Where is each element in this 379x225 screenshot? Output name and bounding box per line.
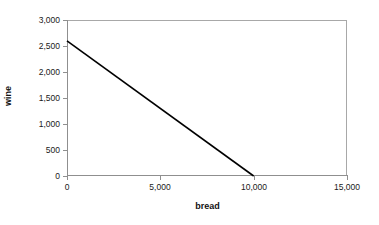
y-axis-title: wine <box>3 76 13 116</box>
series-line-budget-constraint <box>67 41 254 176</box>
chart-container: 3,000 2,500 2,000 1,500 1,000 500 0 0 5,… <box>0 0 379 225</box>
series-layer <box>0 0 379 225</box>
x-axis-title: bread <box>67 201 348 211</box>
